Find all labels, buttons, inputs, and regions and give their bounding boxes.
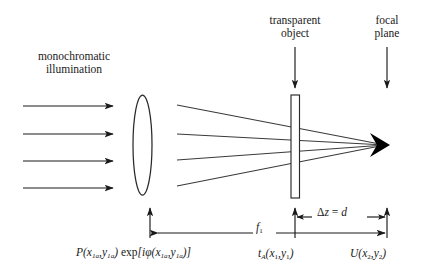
focal-plane-convergence-point <box>370 133 390 157</box>
fan-ray-4 <box>177 145 385 186</box>
focal-plane-line1: focal <box>354 14 420 27</box>
object-transmittance-label: tA(x1,y1) <box>258 247 293 261</box>
focal-plane-line2: plane <box>354 27 420 40</box>
biconvex-lens-icon <box>133 95 152 195</box>
monochromatic-illumination-line1: monochromatic <box>16 50 132 63</box>
transparent-object-label: transparent object <box>247 14 343 40</box>
delta-z-label: Δz = d <box>317 206 347 219</box>
focal-length-label: f1 <box>256 221 263 235</box>
transparent-object-line1: transparent <box>247 14 343 27</box>
converging-ray-fan <box>177 105 385 186</box>
transparent-object-line2: object <box>247 27 343 40</box>
focal-plane-field-label: U(x2,y2) <box>350 247 386 261</box>
transparent-object-plate <box>291 95 300 198</box>
monochromatic-illumination-label: monochromatic illumination <box>16 50 132 76</box>
diagram-canvas <box>0 0 426 275</box>
pupil-function-label: P(x1a,y1a) exp[iφ(x1a,y1a)] <box>76 246 191 260</box>
fan-ray-3 <box>177 145 385 160</box>
incoming-illumination-rays <box>23 106 113 188</box>
monochromatic-illumination-line2: illumination <box>16 63 132 76</box>
focal-plane-label: focal plane <box>354 14 420 40</box>
optics-diagram: monochromatic illumination transparent o… <box>0 0 426 275</box>
